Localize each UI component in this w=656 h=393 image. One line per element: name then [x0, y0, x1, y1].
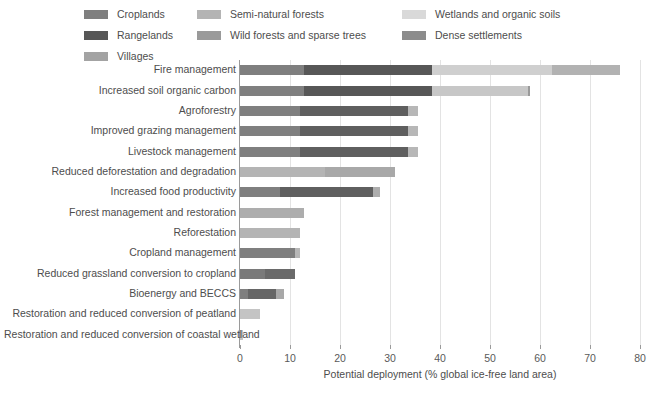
- gridline: [290, 60, 291, 345]
- x-axis-tick: [440, 345, 441, 349]
- bar-row[interactable]: [240, 147, 640, 157]
- bar-row[interactable]: [240, 208, 640, 218]
- category-label: Agroforestry: [4, 105, 236, 116]
- bar-segment[interactable]: [248, 289, 276, 299]
- x-axis-tick-label: 30: [375, 352, 405, 364]
- x-axis-tick-label: 0: [225, 352, 255, 364]
- legend-item[interactable]: Wetlands and organic soils: [402, 6, 560, 23]
- legend-item-label: Dense settlements: [435, 30, 522, 41]
- bar-segment[interactable]: [240, 289, 248, 299]
- category-label: Bioenergy and BECCS: [4, 288, 236, 299]
- category-label: Forest management and restoration: [4, 207, 236, 218]
- bar-row[interactable]: [240, 167, 640, 177]
- bar-row[interactable]: [240, 330, 640, 340]
- bar-row[interactable]: [240, 228, 640, 238]
- category-label: Fire management: [4, 64, 236, 75]
- category-labels: Fire managementIncreased soil organic ca…: [0, 60, 236, 345]
- legend-swatch-icon: [402, 31, 426, 40]
- bar-segment[interactable]: [240, 167, 325, 177]
- legend-swatch-icon: [197, 10, 221, 19]
- bar-segment[interactable]: [240, 187, 280, 197]
- bar-row[interactable]: [240, 269, 640, 279]
- legend-item[interactable]: Rangelands: [84, 27, 173, 44]
- bar-row[interactable]: [240, 187, 640, 197]
- bar-row[interactable]: [240, 65, 640, 75]
- x-axis-tick: [290, 345, 291, 349]
- legend-column-2: Semi-natural forestsWild forests and spa…: [197, 6, 366, 48]
- x-axis-tick: [340, 345, 341, 349]
- bar-segment[interactable]: [300, 126, 408, 136]
- category-label: Reduced deforestation and degradation: [4, 166, 236, 177]
- x-axis-tick-label: 40: [425, 352, 455, 364]
- legend-column-3: Wetlands and organic soilsDense settleme…: [402, 6, 560, 48]
- bar-row[interactable]: [240, 86, 640, 96]
- category-label: Restoration and reduced conversion of pe…: [4, 308, 236, 319]
- bar-segment[interactable]: [408, 147, 418, 157]
- bar-row[interactable]: [240, 106, 640, 116]
- bar-segment[interactable]: [408, 126, 418, 136]
- gridline: [440, 60, 441, 345]
- gridline: [490, 60, 491, 345]
- bar-segment[interactable]: [240, 106, 300, 116]
- legend-swatch-icon: [402, 10, 426, 19]
- category-label: Reforestation: [4, 227, 236, 238]
- bar-segment[interactable]: [240, 86, 304, 96]
- bar-segment[interactable]: [240, 208, 304, 218]
- bar-segment[interactable]: [432, 65, 552, 75]
- bar-segment[interactable]: [528, 86, 530, 96]
- legend-item[interactable]: Wild forests and sparse trees: [197, 27, 366, 44]
- bar-segment[interactable]: [373, 187, 380, 197]
- x-axis-tick-label: 10: [275, 352, 305, 364]
- bar-row[interactable]: [240, 289, 640, 299]
- legend-swatch-icon: [197, 31, 221, 40]
- legend-swatch-icon: [84, 10, 108, 19]
- x-axis-tick: [490, 345, 491, 349]
- bar-segment[interactable]: [240, 248, 295, 258]
- gridline: [540, 60, 541, 345]
- bar-row[interactable]: [240, 248, 640, 258]
- x-axis-tick-label: 70: [575, 352, 605, 364]
- legend-item[interactable]: Croplands: [84, 6, 173, 23]
- legend-item[interactable]: Semi-natural forests: [197, 6, 366, 23]
- legend-item-label: Wetlands and organic soils: [435, 9, 560, 20]
- bar-segment[interactable]: [304, 86, 432, 96]
- bar-segment[interactable]: [240, 65, 304, 75]
- bar-segment[interactable]: [240, 147, 300, 157]
- category-label: Increased soil organic carbon: [4, 85, 236, 96]
- legend-item-label: Croplands: [117, 9, 165, 20]
- bar-segment[interactable]: [240, 228, 300, 238]
- x-axis-tick: [590, 345, 591, 349]
- legend-item-label: Semi-natural forests: [230, 9, 324, 20]
- bar-segment[interactable]: [240, 309, 260, 319]
- bar-segment[interactable]: [300, 147, 408, 157]
- legend-swatch-icon: [84, 31, 108, 40]
- x-axis-tick: [390, 345, 391, 349]
- bar-row[interactable]: [240, 126, 640, 136]
- bar-segment[interactable]: [552, 65, 620, 75]
- chart-legend: CroplandsRangelandsVillagesSemi-natural …: [84, 6, 644, 56]
- category-label: Improved grazing management: [4, 125, 236, 136]
- bar-segment[interactable]: [295, 248, 300, 258]
- bar-row[interactable]: [240, 309, 640, 319]
- bar-segment[interactable]: [300, 106, 408, 116]
- category-label: Restoration and reduced conversion of co…: [4, 329, 236, 340]
- bar-segment[interactable]: [240, 269, 265, 279]
- gridline: [640, 60, 641, 345]
- legend-item[interactable]: Dense settlements: [402, 27, 560, 44]
- bar-segment[interactable]: [408, 106, 418, 116]
- bar-segment[interactable]: [276, 289, 284, 299]
- category-label: Cropland management: [4, 247, 236, 258]
- bar-segment[interactable]: [304, 65, 432, 75]
- bar-segment[interactable]: [240, 126, 300, 136]
- legend-item-label: Wild forests and sparse trees: [230, 30, 366, 41]
- bar-segment[interactable]: [325, 167, 395, 177]
- category-label: Reduced grassland conversion to cropland: [4, 268, 236, 279]
- stacked-bar-chart: CroplandsRangelandsVillagesSemi-natural …: [0, 0, 656, 393]
- x-axis-tick-label: 60: [525, 352, 555, 364]
- bar-segment[interactable]: [280, 187, 373, 197]
- bar-segment[interactable]: [265, 269, 295, 279]
- x-axis-tick: [240, 345, 241, 349]
- bar-segment[interactable]: [432, 86, 528, 96]
- gridline: [390, 60, 391, 345]
- x-axis-tick-label: 50: [475, 352, 505, 364]
